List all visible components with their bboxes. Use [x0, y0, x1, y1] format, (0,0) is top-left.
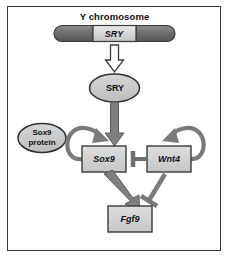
edge-wnt4-inhibits-sox9 — [133, 151, 147, 167]
node-sry-protein — [90, 74, 140, 102]
y-chromosome-title: Y chromosome — [0, 11, 229, 22]
node-sox9-gene — [82, 146, 126, 172]
edge-sox9-activates-fgf9 — [104, 170, 140, 211]
edge-wnt4-inhibits-fgf9 — [141, 174, 165, 206]
edge-chromosome-to-sry — [106, 45, 124, 72]
node-sox9-protein — [18, 124, 66, 153]
pathway-diagram-canvas — [0, 0, 229, 259]
edge-sry-to-sox9 — [105, 102, 124, 146]
figure-root: Y chromosome SRY SRY Sox9 protein Sox9 W… — [0, 0, 229, 259]
y-chromosome-bar — [54, 26, 175, 42]
node-wnt4-gene — [147, 146, 191, 172]
node-fgf9-gene — [108, 206, 152, 232]
